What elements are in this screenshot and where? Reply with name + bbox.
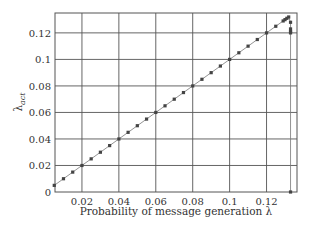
data-point-marker — [210, 71, 213, 74]
data-point-marker — [265, 31, 268, 34]
data-point-marker — [289, 190, 292, 193]
data-point-marker — [274, 25, 277, 28]
data-point-marker — [228, 58, 231, 61]
y-axis-label: λact — [12, 92, 27, 112]
data-point-marker — [80, 164, 83, 167]
y-tick-label: 0.12 — [29, 28, 51, 39]
y-tick-label: 0.1 — [35, 54, 51, 65]
data-series — [53, 15, 292, 193]
y-axis-label-sub: act — [18, 92, 27, 105]
chart: 0.020.040.060.080.10.12 00.020.040.060.0… — [0, 0, 311, 233]
data-point-marker — [126, 131, 129, 134]
y-tick-label: 0.04 — [29, 134, 51, 145]
data-point-marker — [287, 15, 290, 18]
y-tick-label: 0.08 — [29, 81, 51, 92]
data-point-marker — [145, 117, 148, 120]
data-point-marker — [246, 45, 249, 48]
data-point-marker — [117, 137, 120, 140]
data-point-marker — [191, 84, 194, 87]
data-point-marker — [289, 21, 292, 24]
x-axis-label: Probability of message generation λ — [80, 205, 273, 217]
data-point-marker — [108, 144, 111, 147]
data-point-marker — [173, 98, 176, 101]
data-point-marker — [136, 124, 139, 127]
data-point-marker — [163, 104, 166, 107]
data-point-marker — [53, 184, 56, 187]
data-point-marker — [237, 51, 240, 54]
y-tick-label: 0 — [45, 187, 51, 198]
data-point-marker — [62, 177, 65, 180]
y-tick-label: 0.02 — [29, 160, 51, 171]
y-axis-ticks: 00.020.040.060.080.10.12 — [29, 28, 51, 198]
y-tick-label: 0.06 — [29, 107, 51, 118]
data-point-marker — [71, 171, 74, 174]
data-point-marker — [182, 91, 185, 94]
data-point-marker — [219, 64, 222, 67]
data-point-marker — [289, 31, 292, 34]
data-point-marker — [90, 157, 93, 160]
grid-lines — [55, 13, 297, 192]
data-point-marker — [256, 38, 259, 41]
data-point-marker — [99, 151, 102, 154]
data-point-marker — [200, 78, 203, 81]
data-point-marker — [154, 111, 157, 114]
